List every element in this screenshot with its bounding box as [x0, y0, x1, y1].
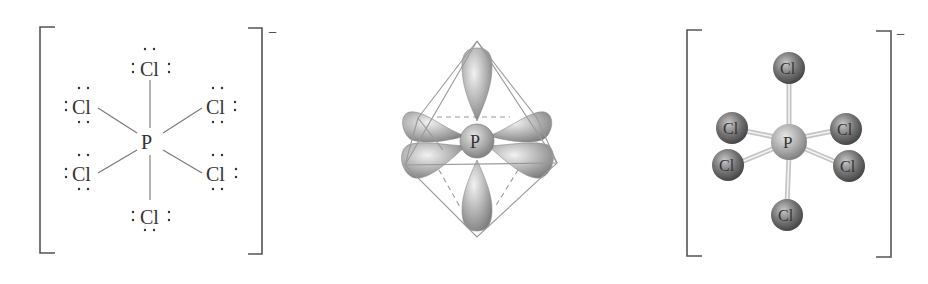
- svg-text:Cl: Cl: [780, 60, 796, 77]
- ball-stick-model: − Cl Cl Cl: [687, 26, 905, 257]
- svg-text:P: P: [783, 133, 792, 152]
- svg-text:Cl: Cl: [723, 120, 739, 137]
- cl-atom-upper-right: Cl: [830, 113, 862, 145]
- cl-atom-lower-left: Cl: [712, 149, 744, 181]
- atom-cl-lower-right: Cl: [206, 163, 225, 185]
- atom-cl-upper-left: Cl: [72, 96, 91, 118]
- orbital-diagram: P: [402, 41, 557, 237]
- atom-p-orbital-label: P: [470, 132, 480, 152]
- atom-cl-top: Cl: [140, 58, 159, 80]
- cl-atom-upper-left: Cl: [716, 112, 748, 144]
- lobe-upper-right: [488, 112, 552, 142]
- svg-text:Cl: Cl: [719, 157, 735, 174]
- atom-cl-upper-right: Cl: [206, 96, 225, 118]
- lobe-lower-right: [488, 143, 553, 178]
- lobe-lower-left: [402, 143, 466, 178]
- atom-cl-lower-left: Cl: [72, 163, 91, 185]
- charge-label: −: [268, 24, 277, 41]
- cl-atom-top: Cl: [773, 52, 805, 84]
- diagram-canvas: − P Cl Cl Cl Cl Cl Cl: [0, 0, 928, 284]
- p-atom: P: [771, 124, 807, 160]
- charge-label-3d: −: [896, 26, 905, 43]
- svg-text:Cl: Cl: [778, 207, 794, 224]
- cl-atom-lower-right: Cl: [833, 150, 865, 182]
- left-bracket-3d: [687, 30, 702, 256]
- atom-p: P: [141, 131, 152, 153]
- svg-text:Cl: Cl: [837, 121, 853, 138]
- lobe-bottom: [462, 160, 492, 231]
- right-bracket: [248, 28, 262, 254]
- atom-cl-bottom: Cl: [140, 206, 159, 228]
- svg-text:Cl: Cl: [840, 158, 856, 175]
- left-bracket: [40, 27, 55, 253]
- right-bracket-3d: [876, 31, 891, 257]
- cl-atom-bottom: Cl: [771, 199, 803, 231]
- lewis-structure: − P Cl Cl Cl Cl Cl Cl: [40, 24, 277, 254]
